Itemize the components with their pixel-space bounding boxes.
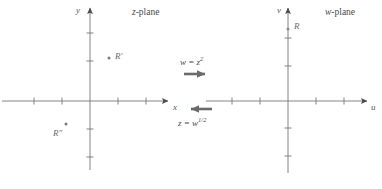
inverse-mapping-exponent: 1/2 [198, 116, 206, 123]
z-plane-axes [2, 8, 168, 170]
point-r-prime-marker [108, 57, 111, 60]
point-r-prime-label: R′ [115, 52, 122, 61]
z-plane-x-axis-label: x [173, 103, 177, 112]
w-plane-title-suffix: -plane [331, 7, 355, 17]
inverse-mapping-base: z = w [178, 118, 198, 128]
z-plane-title-suffix: -plane [136, 7, 160, 17]
w-plane-u-axis-label: u [371, 103, 376, 112]
forward-mapping-base: w = z [180, 57, 200, 67]
point-r-marker [287, 28, 290, 31]
forward-mapping-label: w = z2 [180, 58, 203, 67]
z-plane-title: z-plane [132, 8, 159, 18]
figure-vector-layer [0, 0, 382, 189]
point-r-double-prime-marker [65, 123, 68, 126]
inverse-mapping-label: z = w1/2 [178, 119, 206, 128]
w-plane-v-axis-label: v [277, 6, 281, 15]
complex-plane-mapping-figure: y x z-plane R′ R″ w = z2 z = w1/2 v u w-… [0, 0, 382, 189]
z-plane-y-axis-label: y [76, 6, 80, 15]
w-plane-axes [206, 8, 367, 173]
point-r-double-prime-label: R″ [53, 129, 62, 138]
mapping-arrows [184, 74, 212, 109]
w-plane-title: w-plane [325, 8, 355, 18]
point-r-label: R [294, 22, 300, 31]
forward-mapping-exponent: 2 [200, 55, 203, 62]
